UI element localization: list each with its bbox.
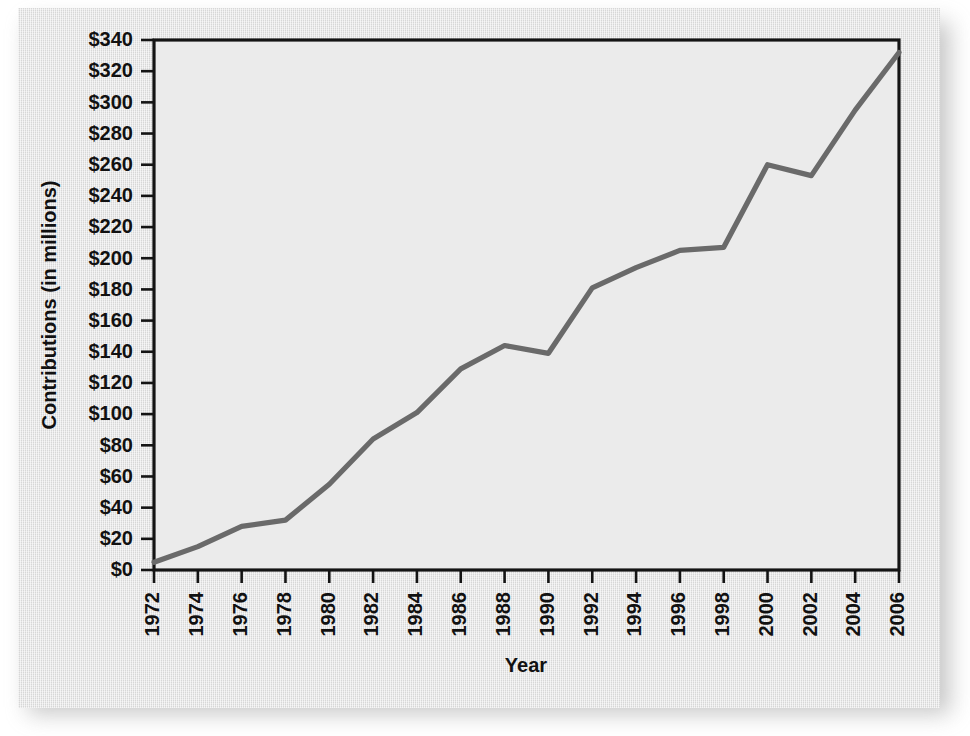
x-tick-label: 1992	[580, 592, 602, 637]
x-tick-label: 2000	[755, 592, 777, 637]
x-tick-label: 1976	[229, 592, 251, 637]
x-tick-label: 2002	[799, 592, 821, 637]
y-tick-label: $140	[89, 340, 134, 362]
y-tick-label: $120	[89, 371, 134, 393]
x-tick-label: 1974	[185, 591, 207, 636]
y-tick-label: $300	[89, 91, 134, 113]
y-tick-label: $0	[111, 558, 133, 580]
y-tick-label: $280	[89, 122, 134, 144]
y-axis-ticks: $0$20$40$60$80$100$120$140$160$180$200$2…	[89, 28, 155, 580]
x-axis-ticks: 1972197419761978198019821984198619881990…	[141, 570, 908, 637]
x-axis-title: Year	[505, 654, 547, 676]
y-tick-label: $160	[89, 309, 134, 331]
y-tick-label: $180	[89, 278, 134, 300]
y-tick-label: $60	[100, 465, 133, 487]
y-tick-label: $40	[100, 496, 133, 518]
x-tick-label: 1988	[492, 592, 514, 637]
chart-card: $0$20$40$60$80$100$120$140$160$180$200$2…	[18, 8, 940, 708]
x-tick-label: 1994	[623, 591, 645, 636]
y-tick-label: $100	[89, 402, 134, 424]
x-tick-label: 1998	[711, 592, 733, 637]
chart-page: $0$20$40$60$80$100$120$140$160$180$200$2…	[0, 0, 970, 736]
y-tick-label: $340	[89, 28, 134, 50]
x-tick-label: 2006	[886, 592, 908, 637]
y-tick-label: $260	[89, 153, 134, 175]
x-tick-label: 1978	[273, 592, 295, 637]
y-tick-label: $20	[100, 527, 133, 549]
x-tick-label: 1972	[141, 592, 163, 637]
x-tick-label: 1980	[317, 592, 339, 637]
y-axis-title: Contributions (in millions)	[38, 181, 60, 430]
y-tick-label: $240	[89, 184, 134, 206]
x-tick-label: 1982	[360, 592, 382, 637]
line-chart: $0$20$40$60$80$100$120$140$160$180$200$2…	[18, 8, 940, 708]
y-tick-label: $80	[100, 434, 133, 456]
y-tick-label: $320	[89, 59, 134, 81]
plot-area-frame	[154, 40, 899, 570]
y-tick-label: $200	[89, 247, 134, 269]
x-tick-label: 2004	[842, 591, 864, 636]
x-tick-label: 1990	[536, 592, 558, 637]
y-tick-label: $220	[89, 215, 134, 237]
x-tick-label: 1984	[404, 591, 426, 636]
x-tick-label: 1986	[448, 592, 470, 637]
x-tick-label: 1996	[667, 592, 689, 637]
